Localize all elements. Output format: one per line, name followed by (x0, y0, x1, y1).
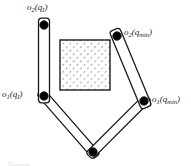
joint-o1-initial (40, 92, 48, 100)
label-base-sub: 2 (32, 6, 35, 13)
label-arg-sub: min (167, 98, 177, 105)
obstacle-group (60, 40, 110, 90)
figure-canvas (0, 0, 191, 166)
joint-o1-min (140, 97, 148, 105)
link-initial-upper (39, 18, 50, 103)
label-paren-close: ) (19, 89, 22, 99)
label-base: o (2, 89, 7, 99)
joint-o2-min (113, 32, 121, 40)
label-paren-close: ) (149, 27, 152, 37)
label-o1-initial: o1(qI) (2, 90, 22, 99)
label-base-sub: 1 (7, 93, 10, 100)
label-base: o (124, 27, 129, 37)
label-base: o (27, 2, 32, 12)
label-base-sub: 2 (129, 31, 132, 38)
hatched-square-obstacle (60, 40, 110, 90)
label-arg-sub: min (139, 31, 149, 38)
joint-base-pivot (89, 148, 97, 156)
manipulator-figure: o2(qI) o1(qI) o2(qmin) o1(qmin) Figure (0, 0, 191, 166)
label-base-sub: 1 (157, 98, 160, 105)
label-paren-close: ) (177, 94, 180, 104)
label-o2-initial: o2(qI) (27, 3, 47, 12)
joint-o2-initial (40, 21, 48, 29)
caption-strip: Figure (0, 157, 191, 166)
label-o2-min: o2(qmin) (124, 28, 152, 37)
label-paren-close: ) (44, 2, 47, 12)
caption-text: Figure (8, 161, 29, 166)
label-o1-min: o1(qmin) (152, 95, 180, 104)
label-base: o (152, 94, 157, 104)
